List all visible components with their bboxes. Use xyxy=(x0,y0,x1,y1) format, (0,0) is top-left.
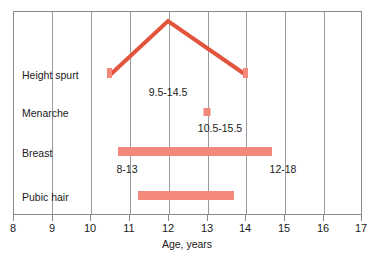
xtick-label-13: 13 xyxy=(201,222,213,234)
tick-12 xyxy=(168,215,169,221)
row-label-breast: Breast xyxy=(22,147,52,159)
annotation-menarche-range: 10.5-15.5 xyxy=(198,122,242,134)
row-label-height-spurt: Height spurt xyxy=(22,69,79,81)
gridline-age-11 xyxy=(130,12,131,214)
gridline-age-10 xyxy=(91,12,92,214)
xtick-label-14: 14 xyxy=(239,222,251,234)
tick-9 xyxy=(52,215,53,221)
gridline-age-16 xyxy=(324,12,325,214)
tick-10 xyxy=(90,215,91,221)
xtick-label-17: 17 xyxy=(355,222,367,234)
xtick-label-11: 11 xyxy=(123,222,134,234)
xtick-label-12: 12 xyxy=(162,222,174,234)
row-label-pubic-hair: Pubic hair xyxy=(22,191,69,203)
annotation-height-spurt-range: 9.5-14.5 xyxy=(149,86,188,98)
pubic-hair-bar xyxy=(138,191,234,200)
xtick-label-8: 8 xyxy=(10,222,16,234)
xtick-label-15: 15 xyxy=(278,222,290,234)
tick-16 xyxy=(323,215,324,221)
gridline-age-14 xyxy=(246,12,247,214)
x-axis-title: Age, years xyxy=(0,238,374,250)
tick-11 xyxy=(129,215,130,221)
breast-bar xyxy=(118,147,272,156)
row-label-menarche: Menarche xyxy=(22,107,69,119)
tick-17 xyxy=(361,215,362,221)
xtick-label-9: 9 xyxy=(49,222,55,234)
tick-13 xyxy=(207,215,208,221)
tick-14 xyxy=(245,215,246,221)
gridline-age-12 xyxy=(169,12,170,214)
annotation-breast-start-range: 8-13 xyxy=(116,163,137,175)
xtick-label-16: 16 xyxy=(317,222,329,234)
annotation-breast-end-range: 12-18 xyxy=(270,163,297,175)
menarche-marker xyxy=(204,108,211,116)
gridline-age-15 xyxy=(285,12,286,214)
tick-8 xyxy=(13,215,14,221)
tick-15 xyxy=(284,215,285,221)
xtick-label-10: 10 xyxy=(84,222,96,234)
puberty-timeline-chart: Height spurt Menarche Breast Pubic hair … xyxy=(0,0,374,256)
